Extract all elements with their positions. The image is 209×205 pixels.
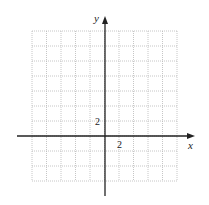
x-tick-label: 2 xyxy=(117,139,122,150)
y-axis-label: y xyxy=(93,12,99,24)
y-axis-arrow-icon xyxy=(102,16,108,24)
coordinate-plane: y x 2 2 xyxy=(0,0,209,205)
y-tick-label: 2 xyxy=(95,116,100,127)
x-axis-label: x xyxy=(187,139,193,151)
